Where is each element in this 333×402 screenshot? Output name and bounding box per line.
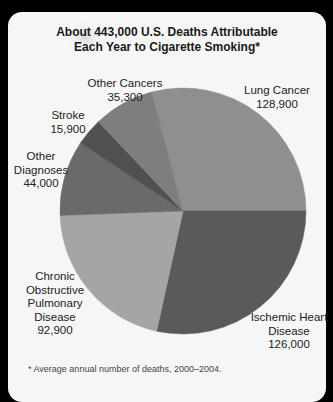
- label-other-diagnoses: Other Diagnoses 44,000: [6, 150, 76, 191]
- label-ischemic-heart-disease: Ischemic Heart Disease 126,000: [244, 311, 333, 352]
- label-copd: Chronic Obstructive Pulmonary Disease 92…: [20, 270, 90, 338]
- label-stroke: Stroke 15,900: [38, 109, 98, 136]
- label-lung-cancer: Lung Cancer 128,900: [232, 84, 322, 111]
- label-other-cancers: Other Cancers 35,300: [70, 77, 180, 104]
